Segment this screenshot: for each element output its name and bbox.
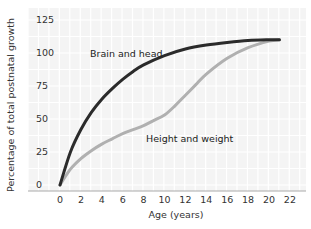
x-tick-label: 8 bbox=[141, 194, 147, 205]
x-tick-label: 18 bbox=[242, 194, 254, 205]
x-tick-label: 20 bbox=[263, 194, 275, 205]
y-axis-title: Percentage of total postnatal growth bbox=[5, 18, 16, 192]
height-and-weight-label: Height and weight bbox=[146, 133, 234, 144]
growth-chart: 0255075100125 0246810121416182022 Brain … bbox=[0, 0, 311, 229]
x-tick-label: 22 bbox=[284, 194, 296, 205]
y-tick-label: 25 bbox=[36, 146, 48, 157]
x-tick-label: 2 bbox=[78, 194, 84, 205]
x-tick-label: 14 bbox=[200, 194, 212, 205]
x-tick-label: 10 bbox=[158, 194, 170, 205]
x-tick-label: 4 bbox=[99, 194, 105, 205]
x-tick-label: 12 bbox=[179, 194, 191, 205]
brain-and-head-label: Brain and head bbox=[90, 48, 163, 59]
y-tick-label: 0 bbox=[36, 179, 42, 190]
x-tick-label: 6 bbox=[120, 194, 126, 205]
x-tick-labels: 0246810121416182022 bbox=[57, 194, 296, 205]
y-tick-label: 75 bbox=[36, 80, 48, 91]
x-axis-title: Age (years) bbox=[149, 209, 204, 220]
y-tick-label: 50 bbox=[36, 113, 48, 124]
y-tick-label: 125 bbox=[36, 14, 54, 25]
x-tick-label: 16 bbox=[221, 194, 233, 205]
y-tick-label: 100 bbox=[36, 47, 54, 58]
x-tick-label: 0 bbox=[57, 194, 63, 205]
